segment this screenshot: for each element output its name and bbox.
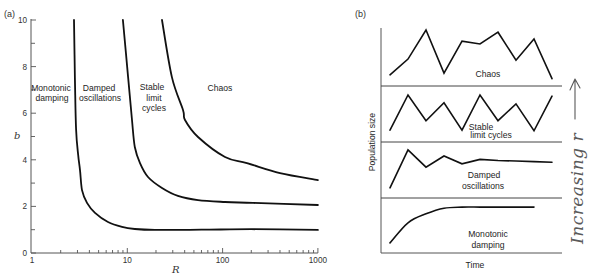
- series-label-line: oscillations: [462, 181, 504, 191]
- region-label-stable-limit-cycles: Stable limit cycles: [140, 82, 166, 113]
- series-label-line: Monotonic: [468, 229, 508, 239]
- x-tick-label: 10: [123, 256, 133, 265]
- x-axis-title: R: [171, 264, 180, 275]
- boundary-curve-monotonic-damped: [74, 20, 318, 230]
- series-label-stable-limit-cycles: Stable limit cycles: [469, 122, 512, 140]
- y-tick-label: 6: [22, 109, 27, 118]
- region-label-damped-oscillations: Damped oscillations: [79, 83, 121, 103]
- series-line-chaos: [390, 30, 552, 79]
- region-label-line: Chaos: [208, 83, 233, 93]
- y-axis-title: b: [14, 130, 20, 141]
- x-tick-label: 1: [30, 256, 35, 265]
- panel-a-label: (a): [4, 9, 15, 19]
- panel-b-label: (b): [355, 9, 366, 19]
- series-label-line: Damped: [468, 170, 501, 180]
- series-label-line: Chaos: [476, 69, 501, 79]
- series-label-monotonic-damping: Monotonic damping: [468, 229, 508, 250]
- series-line-monotonic-damping: [390, 207, 534, 243]
- region-label-line: cycles: [142, 103, 166, 113]
- y-tick-label: 2: [22, 202, 27, 211]
- figure: (a) 11010010000246810 b R Monotonic damp…: [0, 0, 593, 275]
- figure-svg: (a) 11010010000246810 b R Monotonic damp…: [0, 0, 593, 275]
- series-label-chaos: Chaos: [476, 69, 501, 79]
- y-tick-label: 10: [18, 16, 28, 25]
- y-tick-label: 8: [22, 63, 27, 72]
- x-tick-label: 100: [216, 256, 230, 265]
- region-label-line: damping: [36, 93, 69, 103]
- series-label-damped-oscillations: Damped oscillations: [462, 170, 504, 191]
- panel-a-tick-labels: 11010010000246810: [18, 16, 328, 265]
- region-label-chaos: Chaos: [208, 83, 233, 93]
- region-label-line: oscillations: [79, 93, 121, 103]
- series-label-line: damping: [472, 240, 505, 250]
- region-label-line: Damped: [83, 83, 116, 93]
- panel-a: (a) 11010010000246810 b R Monotonic damp…: [4, 9, 327, 275]
- series-label-line: limit cycles: [470, 130, 512, 140]
- y-tick-label: 0: [22, 249, 27, 258]
- region-label-line: Monotonic: [31, 83, 71, 93]
- arrow-up-icon: [570, 79, 580, 119]
- boundary-curve-stable-chaos: [162, 20, 318, 180]
- panel-b-x-axis-title: Time: [466, 260, 485, 270]
- panel-b-y-axis-title: Population size: [367, 113, 377, 172]
- x-tick-label: 1000: [309, 256, 328, 265]
- region-label-line: limit: [146, 93, 162, 103]
- region-label-line: Stable: [140, 82, 165, 92]
- region-label-monotonic-damping: Monotonic damping: [31, 83, 71, 103]
- panel-b: (b) Population size Time Chaos Stable li…: [355, 9, 587, 270]
- y-tick-label: 4: [22, 156, 27, 165]
- increasing-r-annotation: Increasing r: [567, 133, 587, 245]
